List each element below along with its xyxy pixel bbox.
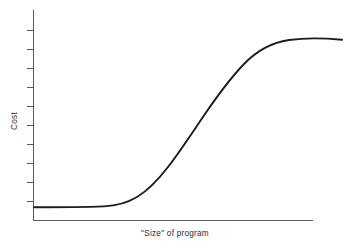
y-axis-ticks [27,31,34,202]
y-axis-label: Cost [10,112,19,130]
cost-curve-line [34,38,342,207]
chart-figure: Cost "Size" of program [0,0,350,250]
chart-plot-area: Cost "Size" of program [0,0,350,250]
x-axis-label: "Size" of program [141,229,209,238]
